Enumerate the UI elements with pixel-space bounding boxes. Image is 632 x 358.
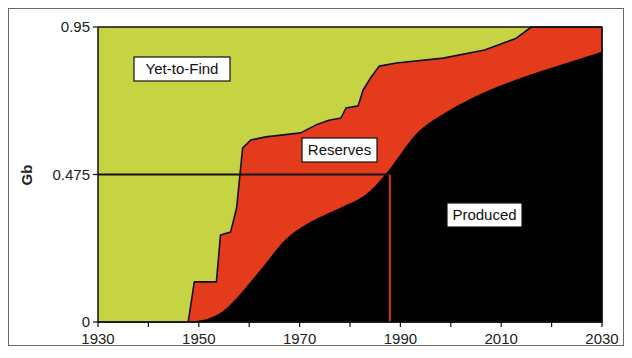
y-tick-label: 0.475 bbox=[52, 166, 90, 183]
x-tick-label: 1970 bbox=[283, 330, 316, 347]
reserves-label-text: Reserves bbox=[308, 141, 371, 158]
x-axis-ticks: 193019501970199020102030 bbox=[81, 322, 618, 347]
chart-svg: 193019501970199020102030 00.4750.95 Gb Y… bbox=[0, 0, 632, 358]
x-tick-label: 1950 bbox=[182, 330, 215, 347]
y-axis-title: Gb bbox=[18, 165, 35, 186]
x-tick-label: 1990 bbox=[384, 330, 417, 347]
y-axis-ticks: 00.4750.95 bbox=[52, 18, 98, 330]
x-tick-label: 2010 bbox=[485, 330, 518, 347]
y-tick-label: 0 bbox=[82, 313, 90, 330]
reserves-label: Reserves bbox=[302, 138, 377, 162]
produced-label: Produced bbox=[447, 203, 522, 227]
yet-to-find-label: Yet-to-Find bbox=[134, 57, 230, 81]
x-tick-label: 2030 bbox=[585, 330, 618, 347]
y-tick-label: 0.95 bbox=[61, 18, 90, 35]
x-tick-label: 1930 bbox=[81, 330, 114, 347]
yet-to-find-label-text: Yet-to-Find bbox=[146, 60, 219, 77]
produced-label-text: Produced bbox=[452, 206, 516, 223]
